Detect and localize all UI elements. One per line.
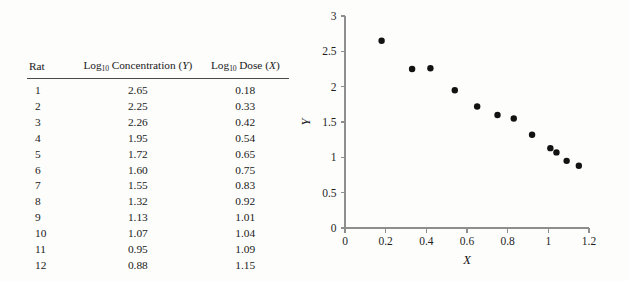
cell-dose-value: 0.33 bbox=[202, 98, 289, 114]
col-dose-middle: Dose ( bbox=[236, 59, 269, 71]
cell-dose-value: 1.01 bbox=[202, 210, 289, 226]
rat-data-table-panel: Rat Log10 Concentration (Y) Log10 Dose (… bbox=[27, 58, 289, 274]
data-point bbox=[427, 65, 433, 71]
cell-concentration-value: 1.95 bbox=[74, 130, 201, 146]
data-point bbox=[474, 103, 480, 109]
cell-concentration-value: 1.72 bbox=[74, 146, 201, 162]
data-point bbox=[563, 158, 569, 164]
cell-rat-number: 11 bbox=[27, 242, 74, 258]
x-tick-label: 0.2 bbox=[378, 235, 393, 247]
table-body: 12.650.1822.250.3332.260.4241.950.5451.7… bbox=[27, 78, 289, 273]
data-point bbox=[576, 163, 582, 169]
x-axis-title: X bbox=[462, 253, 472, 267]
table-row: 120.881.15 bbox=[27, 258, 289, 274]
data-point bbox=[529, 132, 535, 138]
cell-dose-value: 0.75 bbox=[202, 162, 289, 178]
cell-rat-number: 5 bbox=[27, 146, 74, 162]
cell-rat-number: 12 bbox=[27, 258, 74, 274]
cell-concentration-value: 1.32 bbox=[74, 194, 201, 210]
data-point bbox=[511, 115, 517, 121]
table-row: 51.720.65 bbox=[27, 146, 289, 162]
cell-dose-value: 0.92 bbox=[202, 194, 289, 210]
col-dose-prefix: Log bbox=[211, 59, 229, 71]
cell-concentration-value: 2.65 bbox=[74, 78, 201, 98]
cell-dose-value: 0.42 bbox=[202, 114, 289, 130]
x-tick-label: 0.8 bbox=[500, 235, 515, 247]
x-tick-label: 0.6 bbox=[460, 235, 475, 247]
scatter-plot-svg: 00.511.522.53 00.20.40.60.811.2 X Y bbox=[292, 0, 629, 281]
y-axis-ticks: 00.511.522.53 bbox=[322, 10, 345, 234]
x-tick-label: 0.4 bbox=[419, 235, 434, 247]
column-header-rat: Rat bbox=[27, 58, 74, 78]
table-header: Rat Log10 Concentration (Y) Log10 Dose (… bbox=[27, 58, 289, 78]
data-point bbox=[452, 87, 458, 93]
cell-concentration-value: 2.26 bbox=[74, 114, 201, 130]
data-point bbox=[378, 38, 384, 44]
table-row: 91.131.01 bbox=[27, 210, 289, 226]
cell-rat-number: 8 bbox=[27, 194, 74, 210]
y-tick-label: 0.5 bbox=[322, 187, 337, 199]
data-point bbox=[494, 112, 500, 118]
cell-dose-value: 0.65 bbox=[202, 146, 289, 162]
data-point bbox=[409, 66, 415, 72]
cell-concentration-value: 0.88 bbox=[74, 258, 201, 274]
table-row: 110.951.09 bbox=[27, 242, 289, 258]
rat-data-table: Rat Log10 Concentration (Y) Log10 Dose (… bbox=[27, 58, 289, 274]
cell-dose-value: 0.18 bbox=[202, 78, 289, 98]
col-dose-suffix: ) bbox=[276, 59, 280, 71]
scatter-plot-panel: 00.511.522.53 00.20.40.60.811.2 X Y bbox=[292, 0, 629, 281]
column-header-concentration: Log10 Concentration (Y) bbox=[74, 58, 201, 78]
table-row: 32.260.42 bbox=[27, 114, 289, 130]
cell-rat-number: 10 bbox=[27, 226, 74, 242]
cell-rat-number: 2 bbox=[27, 98, 74, 114]
cell-concentration-value: 1.13 bbox=[74, 210, 201, 226]
column-header-dose: Log10 Dose (X) bbox=[202, 58, 289, 78]
cell-dose-value: 1.09 bbox=[202, 242, 289, 258]
cell-rat-number: 9 bbox=[27, 210, 74, 226]
y-tick-label: 2 bbox=[331, 81, 337, 93]
col-conc-subscript: 10 bbox=[102, 64, 109, 73]
cell-concentration-value: 0.95 bbox=[74, 242, 201, 258]
col-conc-middle: Concentration ( bbox=[109, 59, 182, 71]
cell-rat-number: 6 bbox=[27, 162, 74, 178]
table-row: 61.600.75 bbox=[27, 162, 289, 178]
y-axis-title: Y bbox=[299, 116, 313, 125]
y-tick-label: 1 bbox=[331, 151, 337, 163]
cell-rat-number: 3 bbox=[27, 114, 74, 130]
table-header-row: Rat Log10 Concentration (Y) Log10 Dose (… bbox=[27, 58, 289, 78]
x-tick-label: 1.2 bbox=[582, 235, 597, 247]
col-conc-prefix: Log bbox=[83, 59, 101, 71]
cell-concentration-value: 1.07 bbox=[74, 226, 201, 242]
data-point bbox=[547, 145, 553, 151]
page-root: Rat Log10 Concentration (Y) Log10 Dose (… bbox=[0, 0, 629, 281]
x-tick-label: 0 bbox=[342, 235, 348, 247]
cell-dose-value: 1.04 bbox=[202, 226, 289, 242]
col-dose-symbol: X bbox=[269, 59, 276, 71]
y-tick-label: 2.5 bbox=[322, 45, 337, 57]
table-row: 71.550.83 bbox=[27, 178, 289, 194]
data-points bbox=[378, 38, 582, 169]
x-axis-ticks: 00.20.40.60.811.2 bbox=[342, 228, 596, 247]
col-conc-suffix: ) bbox=[189, 59, 193, 71]
table-row: 22.250.33 bbox=[27, 98, 289, 114]
cell-rat-number: 1 bbox=[27, 78, 74, 98]
table-row: 41.950.54 bbox=[27, 130, 289, 146]
cell-rat-number: 4 bbox=[27, 130, 74, 146]
data-point bbox=[553, 149, 559, 155]
table-row: 81.320.92 bbox=[27, 194, 289, 210]
cell-dose-value: 0.54 bbox=[202, 130, 289, 146]
table-row: 12.650.18 bbox=[27, 78, 289, 98]
y-tick-label: 0 bbox=[331, 222, 337, 234]
column-header-rat-label: Rat bbox=[29, 60, 45, 72]
cell-rat-number: 7 bbox=[27, 178, 74, 194]
table-row: 101.071.04 bbox=[27, 226, 289, 242]
y-tick-label: 1.5 bbox=[322, 116, 337, 128]
cell-concentration-value: 1.60 bbox=[74, 162, 201, 178]
cell-dose-value: 1.15 bbox=[202, 258, 289, 274]
cell-concentration-value: 1.55 bbox=[74, 178, 201, 194]
y-tick-label: 3 bbox=[331, 10, 337, 22]
cell-dose-value: 0.83 bbox=[202, 178, 289, 194]
x-tick-label: 1 bbox=[545, 235, 551, 247]
cell-concentration-value: 2.25 bbox=[74, 98, 201, 114]
